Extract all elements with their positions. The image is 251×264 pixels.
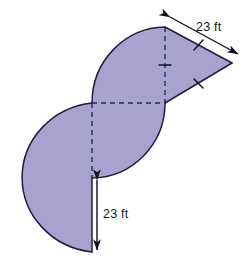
dimension-label-top-right: 23 ft: [196, 20, 221, 34]
figure-canvas: [0, 0, 251, 264]
dimension-label-bottom: 23 ft: [103, 207, 128, 221]
geometry-figure: 23 ft 23 ft: [0, 0, 251, 264]
middle-bulge-fill: [92, 103, 165, 178]
left-semicircle-fill: [22, 103, 92, 252]
